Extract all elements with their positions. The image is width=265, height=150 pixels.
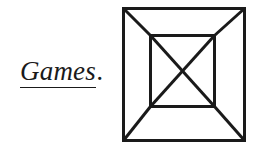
caption-word-games: Games [20, 58, 96, 88]
connector-top-right [215, 9, 245, 36]
connector-top-left [124, 9, 151, 36]
connector-bottom-left [124, 107, 151, 141]
nested-square-svg [118, 3, 250, 147]
page-root: Games. [0, 0, 265, 150]
nested-square-diagram [118, 3, 250, 147]
games-caption: Games. [20, 58, 104, 88]
connector-bottom-right [215, 107, 245, 141]
caption-period: . [96, 58, 104, 85]
